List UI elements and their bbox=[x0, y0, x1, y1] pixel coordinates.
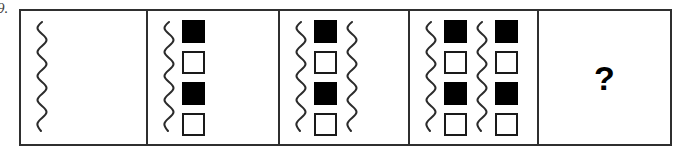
square-empty bbox=[444, 51, 467, 74]
panel-row: ? bbox=[19, 9, 672, 146]
square-filled bbox=[314, 82, 337, 105]
panel-2[interactable] bbox=[148, 11, 280, 144]
square-column bbox=[444, 20, 467, 136]
square-column bbox=[495, 20, 518, 136]
square-filled bbox=[444, 82, 467, 105]
square-filled bbox=[495, 20, 518, 43]
square-empty bbox=[495, 51, 518, 74]
square-empty bbox=[182, 51, 205, 74]
square-filled bbox=[444, 20, 467, 43]
square-empty bbox=[314, 113, 337, 136]
square-filled bbox=[182, 82, 205, 105]
figural-sequence-puzzle: 9. bbox=[0, 0, 677, 161]
square-column bbox=[314, 20, 337, 136]
square-empty bbox=[182, 113, 205, 136]
panel-4[interactable] bbox=[410, 11, 539, 144]
squiggle-icon bbox=[420, 20, 438, 136]
panel-3[interactable] bbox=[280, 11, 410, 144]
square-filled bbox=[495, 82, 518, 105]
squiggle-icon bbox=[158, 20, 176, 136]
item-number-label: 9. bbox=[0, 0, 8, 16]
squiggle-icon bbox=[341, 20, 359, 136]
panel-1[interactable] bbox=[21, 11, 148, 144]
square-empty bbox=[314, 51, 337, 74]
question-mark-icon: ? bbox=[594, 61, 615, 95]
square-empty bbox=[444, 113, 467, 136]
square-filled bbox=[182, 20, 205, 43]
panel-5-answer-slot[interactable]: ? bbox=[539, 11, 670, 144]
square-column bbox=[182, 20, 205, 136]
square-empty bbox=[495, 113, 518, 136]
square-filled bbox=[314, 20, 337, 43]
squiggle-icon bbox=[290, 20, 308, 136]
squiggle-icon bbox=[31, 20, 49, 136]
squiggle-icon bbox=[471, 20, 489, 136]
